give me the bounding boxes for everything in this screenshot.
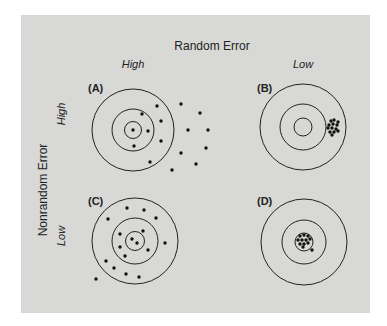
shot-dot [141,229,144,232]
inner-ring [294,118,312,136]
panel-label: (A) [88,82,104,94]
shot-dot [159,119,162,122]
shot-dot [140,112,143,115]
row-label-high: High [55,103,67,126]
shot-dot [335,123,338,126]
shot-dot [123,254,126,257]
shot-dot [300,238,303,241]
row-header: Nonrandom Error [36,144,50,237]
error-targets-diagram: Random Error High Low Nonrandom Error Hi… [0,0,387,326]
shot-dot [336,120,339,123]
column-label-low: Low [293,58,314,70]
shot-dot [296,238,299,241]
shot-dot [94,277,97,280]
shot-dot [159,139,162,142]
shot-dot [146,248,149,251]
middle-ring [280,104,326,150]
shot-dot [329,119,332,122]
shot-dot [306,241,309,244]
shot-dot [118,245,121,248]
shot-dot [179,151,182,154]
shot-dot [124,272,127,275]
shot-dot [302,242,305,245]
shot-dot [302,233,305,236]
panel-label: (C) [88,195,104,207]
panel-label: (D) [257,195,273,207]
shot-dot [137,275,140,278]
shot-dot [310,248,313,251]
row-label-low: Low [55,225,67,246]
shot-dot [326,126,329,129]
shot-dot [194,162,197,165]
outer-ring [92,198,178,284]
target-panel-a: (A) [88,82,210,172]
outer-ring [261,199,347,285]
shot-dot [118,232,121,235]
panel-label: (B) [257,82,273,94]
target-panel-b: (B) [257,82,346,170]
target-panel-d: (D) [257,195,347,285]
shot-dot [155,104,158,107]
target-panel-c: (C) [88,195,178,284]
shot-dot [206,128,209,131]
shot-dot [125,206,128,209]
shot-dot [331,122,334,125]
shot-dot [298,242,301,245]
shot-dot [336,129,339,132]
column-label-high: High [122,58,145,70]
shot-dot [330,133,333,136]
shot-dot [132,144,135,147]
shot-dot [130,237,133,240]
shot-dot [179,102,182,105]
shot-dot [135,241,138,244]
shot-dot [332,130,335,133]
shot-dot [170,168,173,171]
shot-dot [142,208,145,211]
shot-dot [327,123,330,126]
shot-dot [301,245,304,248]
shot-dot [304,238,307,241]
shot-dot [298,234,301,237]
shot-dot [106,217,109,220]
shot-dot [154,216,157,219]
shot-dot [163,241,166,244]
middle-ring [112,218,158,264]
shot-dot [332,118,335,121]
shot-dot [131,128,134,131]
shot-dot [328,130,331,133]
shot-dot [198,111,201,114]
shot-dot [104,259,107,262]
middle-ring [282,220,326,264]
shot-dot [306,234,309,237]
shot-dot [146,129,149,132]
shot-dot [308,237,311,240]
shot-dot [148,160,151,163]
shot-dot [186,128,189,131]
column-header: Random Error [174,39,249,53]
shot-dot [112,266,115,269]
shot-dot [330,126,333,129]
inner-ring [126,232,145,251]
shot-dot [204,146,207,149]
